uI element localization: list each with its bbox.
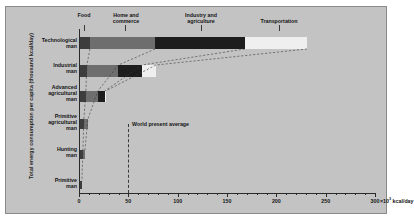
- cat-label-primitive-man: Primitive man: [55, 177, 77, 189]
- bar-segment-home-and-commerce: [87, 65, 119, 77]
- group-header-industry-and-agriculture: Industry and agriculture: [175, 12, 227, 24]
- bar-segment-food: [80, 37, 90, 49]
- bar-segment-transportation: [105, 91, 106, 102]
- table-row: [80, 65, 156, 77]
- table-row: [80, 91, 106, 102]
- x-tick-minor: [119, 193, 120, 195]
- x-tick-250: [326, 193, 327, 197]
- x-tick-minor: [336, 193, 337, 195]
- group-header-transportation: Transportation: [251, 18, 307, 24]
- bar-segment-home-and-commerce: [83, 150, 85, 159]
- x-tick-150: [227, 193, 228, 197]
- table-row: [80, 37, 307, 49]
- x-tick-minor: [207, 193, 208, 195]
- chart-figure: Total energy consumption per capita (tho…: [5, 6, 387, 214]
- x-tick-300: [375, 193, 376, 197]
- bar-segment-transportation: [245, 37, 307, 49]
- group-header-home-and-commerce: Home and commerce: [102, 12, 150, 24]
- x-axis-unit-base: ×10: [380, 198, 389, 204]
- bar-segment-industry-and-agriculture: [118, 65, 142, 77]
- x-tick-minor: [306, 193, 307, 195]
- cat-label-technological-man: Technological man: [42, 37, 77, 49]
- x-tick-minor: [89, 193, 90, 195]
- x-tick-label-150: 150: [223, 198, 232, 204]
- x-tick-minor: [99, 193, 100, 195]
- x-tick-label-100: 100: [173, 198, 182, 204]
- group-tick-industry: [201, 25, 202, 31]
- world-average-line: [128, 124, 129, 193]
- table-row: [80, 119, 88, 129]
- bar-segment-industry-and-agriculture: [155, 37, 245, 49]
- x-tick-minor: [286, 193, 287, 195]
- x-axis-unit-rest: kcal/day: [391, 198, 413, 204]
- x-tick-label-0: 0: [78, 198, 81, 204]
- bar-segment-transportation: [142, 65, 156, 77]
- x-tick-minor: [296, 193, 297, 195]
- x-tick-label-300: 300: [371, 198, 380, 204]
- x-tick-minor: [355, 193, 356, 195]
- y-axis-title: Total energy consumption per capita (tho…: [28, 21, 34, 191]
- connector-lines: [79, 29, 375, 193]
- x-tick-minor: [217, 193, 218, 195]
- x-tick-200: [276, 193, 277, 197]
- group-tick-home: [125, 25, 126, 31]
- cat-label-advanced-agricultural-man: Advanced agricultural man: [48, 84, 77, 103]
- x-tick-minor: [257, 193, 258, 195]
- x-tick-minor: [148, 193, 149, 195]
- group-header-food: Food: [66, 12, 102, 18]
- x-tick-minor: [168, 193, 169, 195]
- x-tick-minor: [109, 193, 110, 195]
- bar-segment-home-and-commerce: [90, 37, 155, 49]
- x-tick-label-250: 250: [321, 198, 330, 204]
- x-tick-minor: [247, 193, 248, 195]
- x-tick-minor: [138, 193, 139, 195]
- x-tick-minor: [197, 193, 198, 195]
- table-row: [80, 181, 82, 189]
- bar-segment-home-and-commerce: [86, 91, 98, 102]
- x-tick-minor: [237, 193, 238, 195]
- x-tick-label-50: 50: [125, 198, 131, 204]
- x-tick-minor: [267, 193, 268, 195]
- world-average-label: World present average: [132, 121, 189, 127]
- table-row: [80, 150, 85, 159]
- bar-segment-food: [80, 65, 87, 77]
- x-tick-label-200: 200: [272, 198, 281, 204]
- y-axis-line: [79, 29, 80, 193]
- x-tick-minor: [188, 193, 189, 195]
- x-axis-unit-label: ×103 kcal/day: [380, 197, 414, 204]
- cat-label-primitive-agricultural-man: Primitive agricultural man: [48, 113, 77, 132]
- bar-segment-food: [80, 181, 82, 189]
- x-tick-minor: [365, 193, 366, 195]
- plot-area: Food Home and commerce Industry and agri…: [79, 29, 375, 193]
- cat-label-industrial-man: Industrial man: [53, 62, 77, 74]
- x-tick-minor: [345, 193, 346, 195]
- cat-label-hunting-man: Hunting man: [57, 146, 77, 158]
- bar-segment-industry-and-agriculture: [98, 91, 105, 102]
- x-tick-0: [79, 193, 80, 197]
- x-tick-minor: [316, 193, 317, 195]
- x-tick-50: [128, 193, 129, 197]
- x-tick-100: [178, 193, 179, 197]
- group-tick-food: [84, 25, 85, 31]
- x-tick-minor: [158, 193, 159, 195]
- bar-segment-home-and-commerce: [84, 119, 88, 129]
- group-tick-transportation: [279, 25, 280, 31]
